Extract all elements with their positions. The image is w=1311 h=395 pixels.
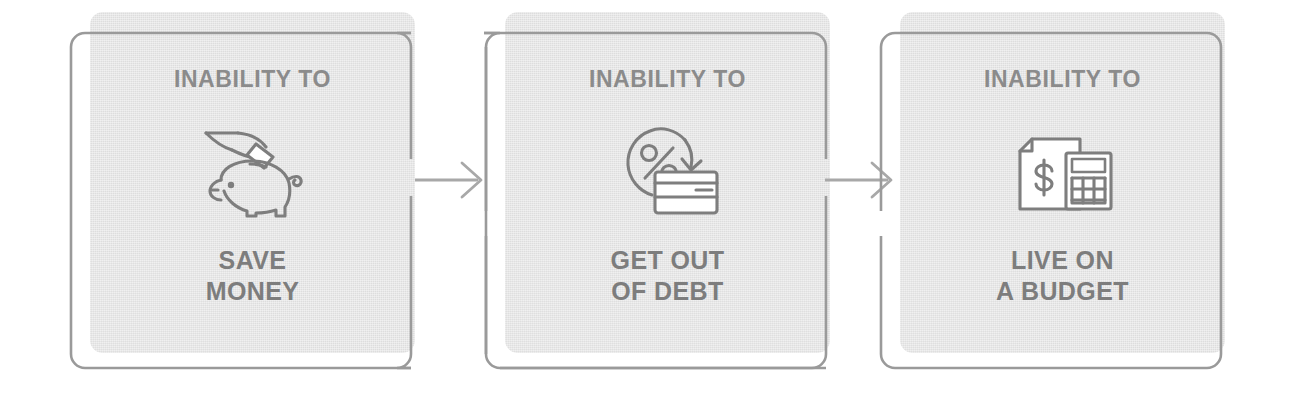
percent-arrow-credit-card-icon (612, 117, 724, 221)
card-title-line-2: A BUDGET (996, 276, 1129, 307)
piggy-bank-with-hand-coin-icon (194, 117, 312, 221)
card-kicker-label: INABILITY TO (589, 68, 746, 91)
flow-card-live-on-a-budget[interactable]: INABILITY TO (865, 0, 1285, 395)
card-title: GET OUT OF DEBT (611, 245, 725, 306)
card-title-line-1: GET OUT (611, 246, 725, 274)
card-title-line-2: MONEY (206, 276, 300, 307)
flow-card-save-money[interactable]: INABILITY TO (55, 0, 475, 395)
card-title: SAVE MONEY (206, 245, 300, 306)
flow-diagram: INABILITY TO (0, 0, 1311, 395)
card-content: INABILITY TO (505, 12, 830, 353)
card-content: INABILITY TO (900, 12, 1225, 353)
card-kicker-label: INABILITY TO (984, 68, 1141, 91)
card-title-line-1: SAVE (219, 246, 287, 274)
document-dollar-calculator-icon (1011, 117, 1115, 221)
card-content: INABILITY TO (90, 12, 415, 353)
card-title-line-1: LIVE ON (1011, 246, 1114, 274)
card-title-line-2: OF DEBT (611, 276, 725, 307)
card-title: LIVE ON A BUDGET (996, 245, 1129, 306)
card-kicker-label: INABILITY TO (174, 68, 331, 91)
